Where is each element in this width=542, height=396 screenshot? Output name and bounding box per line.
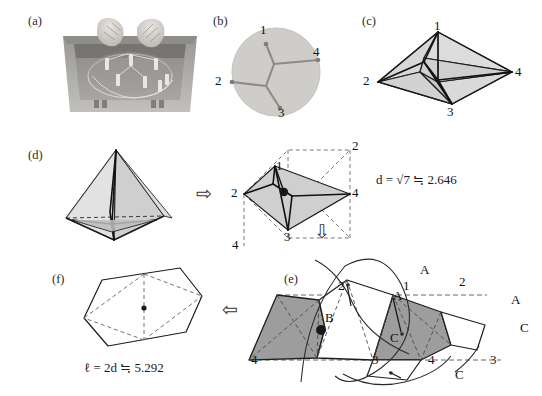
arrow-left-icon: ⇦ bbox=[222, 298, 238, 321]
panel-b-vertex-1: 1 bbox=[260, 22, 267, 38]
panel-d-vertex-4-right: 4 bbox=[352, 185, 359, 201]
panel-e-label-A-right: A bbox=[511, 292, 520, 308]
panel-d-unfolded-rhombus bbox=[226, 136, 366, 254]
panel-e-label-2-left: 2 bbox=[338, 278, 345, 294]
panel-d-vertex-2-top: 2 bbox=[352, 138, 359, 154]
panel-a-photograph bbox=[57, 14, 203, 120]
formula-d: d = √7 ≒ 2.646 bbox=[376, 172, 457, 188]
panel-d-tetrahedron bbox=[52, 146, 178, 250]
panel-e-label-A-left: A bbox=[393, 288, 402, 304]
panel-d-vertex-3: 3 bbox=[284, 229, 291, 245]
panel-e-label-C-bottom: C bbox=[455, 367, 464, 383]
panel-e-developed-tiling bbox=[255, 250, 541, 396]
panel-e-label-3-left: 3 bbox=[372, 352, 379, 368]
panel-e-label-A-top: A bbox=[420, 262, 429, 278]
panel-c-vertex-4: 4 bbox=[515, 64, 522, 80]
panel-e-label-C-left: C bbox=[390, 330, 399, 346]
panel-f-hexagon-cell bbox=[74, 262, 218, 358]
panel-tag-a: (a) bbox=[28, 14, 42, 29]
formula-ell: ℓ = 2d ≒ 5.292 bbox=[84, 360, 164, 376]
arrow-right-icon: ⇨ bbox=[196, 182, 212, 205]
panel-tag-f: (f) bbox=[52, 272, 65, 287]
panel-b-vertex-2: 2 bbox=[215, 73, 222, 89]
panel-b-vertex-4: 4 bbox=[313, 44, 320, 60]
panel-e-label-B: B bbox=[325, 310, 334, 326]
figure-root: (a) bbox=[0, 0, 542, 396]
panel-c-vertex-3: 3 bbox=[447, 104, 454, 120]
panel-d-vertex-2-left: 2 bbox=[231, 185, 238, 201]
arrow-down-icon: ⇩ bbox=[314, 220, 330, 243]
panel-e-label-4-mid: 4 bbox=[428, 352, 435, 368]
panel-c-vertex-1: 1 bbox=[434, 18, 441, 34]
panel-e-label-C-right: C bbox=[520, 320, 529, 336]
panel-c-vertex-2: 2 bbox=[363, 73, 370, 89]
panel-e-label-1: 1 bbox=[403, 278, 410, 294]
panel-tag-d: (d) bbox=[28, 148, 43, 163]
panel-e-label-2-right: 2 bbox=[459, 274, 466, 290]
panel-e-label-3-right: 3 bbox=[490, 352, 497, 368]
panel-b-vertex-3: 3 bbox=[278, 105, 285, 121]
panel-d-vertex-1: 1 bbox=[276, 158, 283, 174]
panel-b-soapfilm-tree bbox=[222, 20, 330, 125]
panel-d-vertex-4-bottom: 4 bbox=[232, 237, 239, 253]
panel-e-label-4-left: 4 bbox=[251, 352, 258, 368]
